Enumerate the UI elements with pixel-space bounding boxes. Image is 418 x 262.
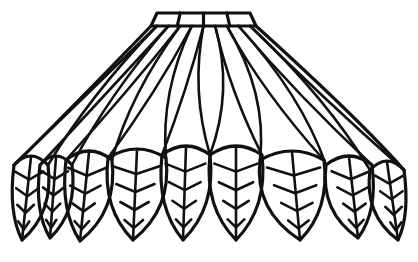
top-band-divider: [177, 13, 180, 26]
rib-left: [239, 26, 327, 165]
leaf-panel: [161, 146, 211, 240]
rib-right: [198, 26, 210, 155]
rib-right: [48, 26, 157, 165]
top-band: [151, 13, 256, 26]
top-band-divider: [227, 13, 230, 26]
leaf-panel: [107, 149, 167, 240]
rib-left: [210, 26, 223, 155]
leaf-panel: [209, 146, 263, 240]
rib-left: [14, 26, 157, 165]
lampshade-drawing: Lampshade leaf pattern line drawing: [0, 0, 418, 262]
rib-left: [66, 26, 180, 160]
leaf-panel: [369, 161, 406, 240]
shade-ribs: [14, 26, 404, 170]
leaf-panel: [325, 156, 373, 238]
rib-left: [40, 26, 169, 165]
rib-right: [227, 26, 324, 160]
lampshade-svg: [0, 0, 418, 262]
leaf-panel: [259, 151, 325, 240]
shade-right-edge: [256, 26, 404, 170]
leaf-panels: [12, 146, 406, 241]
rib-left: [250, 26, 370, 170]
